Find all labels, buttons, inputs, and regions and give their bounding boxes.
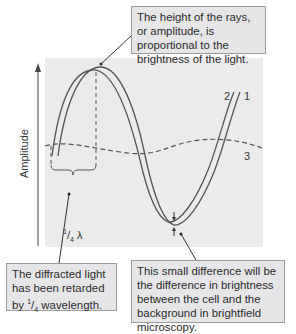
callout-diffracted: The diffracted light has been retarded b…	[6, 263, 117, 311]
callout-difference: This small difference will be the differ…	[131, 260, 285, 323]
leader-right	[181, 234, 196, 260]
ray-3-curve	[45, 139, 262, 153]
quarter-wavelength-label: 1/4 λ	[63, 228, 82, 243]
brace	[51, 165, 96, 175]
y-axis-label: Amplitude	[18, 129, 30, 178]
leader-top	[101, 36, 131, 64]
arrow-up-icon	[172, 227, 176, 231]
ray-3-label: 3	[244, 150, 250, 162]
ray-2-label: 2	[224, 90, 230, 102]
ray-1-label: 1	[244, 90, 250, 102]
y-axis-arrow-icon	[35, 63, 41, 72]
callout-amplitude: The height of the rays, or amplitude, is…	[131, 6, 266, 54]
